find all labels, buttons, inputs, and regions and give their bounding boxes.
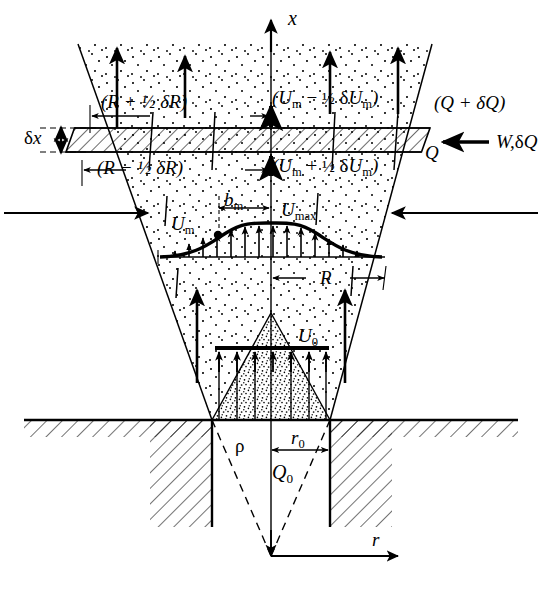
figure-canvas: x δx (R + ½ δR) (R − ½ δR) (Um − ½ δUm) … bbox=[0, 0, 542, 598]
entrainment-label: W,δQ bbox=[496, 132, 538, 151]
control-volume-slice bbox=[66, 128, 430, 152]
velocity-lower-label: (Um + ½ δUm) bbox=[272, 156, 378, 178]
r0-label: r0 bbox=[291, 428, 305, 450]
r-axis-label: r bbox=[372, 530, 379, 549]
density-label: ρ bbox=[235, 436, 244, 455]
radius-upper-label: (R + ½ δR) bbox=[101, 92, 187, 111]
u-mean-label: Um bbox=[171, 214, 194, 236]
shaft-wall-hatch-right bbox=[330, 421, 392, 527]
radius-lower-label: (R − ½ δR) bbox=[97, 158, 183, 177]
flux-upper-label: (Q + δQ) bbox=[434, 93, 505, 112]
u-mean-marker bbox=[214, 231, 222, 239]
diagram-svg bbox=[0, 0, 542, 598]
u-source-label: U0 bbox=[298, 326, 318, 348]
velocity-upper-label: (Um − ½ δUm) bbox=[272, 88, 378, 110]
delta-x-label: δx bbox=[24, 128, 41, 147]
bm-label: bm bbox=[224, 190, 243, 212]
shaft-wall-hatch-left bbox=[150, 421, 212, 527]
x-axis-label: x bbox=[288, 8, 297, 28]
q0-label: Q0 bbox=[272, 462, 293, 485]
R-label: R bbox=[320, 268, 332, 287]
flux-lower-label: Q bbox=[425, 143, 439, 162]
u-max-label: Umax bbox=[281, 200, 316, 222]
